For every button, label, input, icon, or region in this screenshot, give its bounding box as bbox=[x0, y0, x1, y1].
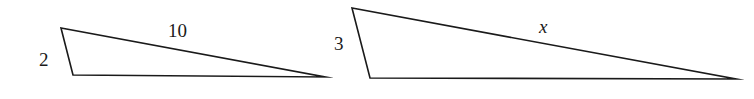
right-triangle-short-side-label: 3 bbox=[334, 34, 344, 53]
geometry-figure: 2 10 3 x bbox=[0, 0, 754, 99]
left-triangle-shape bbox=[61, 28, 325, 77]
left-triangle-hypotenuse-label: 10 bbox=[168, 21, 187, 40]
left-triangle-short-side-label: 2 bbox=[39, 50, 49, 69]
triangles-svg bbox=[0, 0, 754, 99]
right-triangle-hypotenuse-label: x bbox=[539, 17, 547, 36]
